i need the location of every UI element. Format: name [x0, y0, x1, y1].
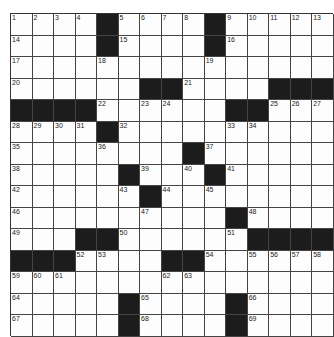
- grid-cell[interactable]: [33, 315, 55, 337]
- grid-cell[interactable]: [269, 186, 291, 208]
- grid-cell[interactable]: 5: [119, 14, 141, 36]
- grid-cell[interactable]: 2: [33, 14, 55, 36]
- grid-cell[interactable]: 8: [183, 14, 205, 36]
- grid-cell[interactable]: [312, 315, 334, 337]
- grid-cell[interactable]: 27: [312, 100, 334, 122]
- grid-cell[interactable]: [269, 315, 291, 337]
- grid-cell[interactable]: 12: [291, 14, 313, 36]
- grid-cell[interactable]: 20: [11, 79, 33, 101]
- grid-cell[interactable]: 38: [11, 165, 33, 187]
- grid-cell[interactable]: [226, 186, 248, 208]
- grid-cell[interactable]: [140, 122, 162, 144]
- grid-cell[interactable]: [248, 272, 270, 294]
- grid-cell[interactable]: 25: [269, 100, 291, 122]
- grid-cell[interactable]: 45: [205, 186, 227, 208]
- grid-cell[interactable]: [140, 272, 162, 294]
- grid-cell[interactable]: 9: [226, 14, 248, 36]
- grid-cell[interactable]: 55: [248, 251, 270, 273]
- grid-cell[interactable]: [183, 36, 205, 58]
- grid-cell[interactable]: [76, 208, 98, 230]
- grid-cell[interactable]: [76, 294, 98, 316]
- grid-cell[interactable]: [162, 294, 184, 316]
- grid-cell[interactable]: 47: [140, 208, 162, 230]
- grid-cell[interactable]: [183, 100, 205, 122]
- grid-cell[interactable]: [33, 143, 55, 165]
- grid-cell[interactable]: [76, 143, 98, 165]
- grid-cell[interactable]: [97, 79, 119, 101]
- grid-cell[interactable]: [119, 143, 141, 165]
- grid-cell[interactable]: [54, 315, 76, 337]
- grid-cell[interactable]: 16: [226, 36, 248, 58]
- grid-cell[interactable]: [97, 165, 119, 187]
- grid-cell[interactable]: 40: [183, 165, 205, 187]
- grid-cell[interactable]: 46: [11, 208, 33, 230]
- grid-cell[interactable]: [54, 79, 76, 101]
- grid-cell[interactable]: 64: [11, 294, 33, 316]
- grid-cell[interactable]: 22: [97, 100, 119, 122]
- grid-cell[interactable]: [54, 165, 76, 187]
- grid-cell[interactable]: 54: [205, 251, 227, 273]
- grid-cell[interactable]: 58: [312, 251, 334, 273]
- grid-cell[interactable]: [269, 57, 291, 79]
- grid-cell[interactable]: [205, 208, 227, 230]
- grid-cell[interactable]: [269, 272, 291, 294]
- grid-cell[interactable]: [312, 122, 334, 144]
- grid-cell[interactable]: [140, 57, 162, 79]
- grid-cell[interactable]: 48: [248, 208, 270, 230]
- grid-cell[interactable]: [291, 143, 313, 165]
- grid-cell[interactable]: [119, 251, 141, 273]
- grid-cell[interactable]: [269, 122, 291, 144]
- grid-cell[interactable]: 44: [162, 186, 184, 208]
- grid-cell[interactable]: [33, 36, 55, 58]
- grid-cell[interactable]: [205, 79, 227, 101]
- grid-cell[interactable]: 63: [183, 272, 205, 294]
- grid-cell[interactable]: [312, 208, 334, 230]
- grid-cell[interactable]: [205, 294, 227, 316]
- grid-cell[interactable]: 7: [162, 14, 184, 36]
- grid-cell[interactable]: 68: [140, 315, 162, 337]
- grid-cell[interactable]: [291, 122, 313, 144]
- grid-cell[interactable]: 53: [97, 251, 119, 273]
- grid-cell[interactable]: [248, 79, 270, 101]
- grid-cell[interactable]: 60: [33, 272, 55, 294]
- grid-cell[interactable]: [119, 272, 141, 294]
- grid-cell[interactable]: [162, 229, 184, 251]
- grid-cell[interactable]: [33, 79, 55, 101]
- grid-cell[interactable]: [269, 143, 291, 165]
- grid-cell[interactable]: [33, 57, 55, 79]
- grid-cell[interactable]: [312, 165, 334, 187]
- grid-cell[interactable]: [205, 315, 227, 337]
- grid-cell[interactable]: [291, 208, 313, 230]
- grid-cell[interactable]: 24: [162, 100, 184, 122]
- grid-cell[interactable]: [269, 36, 291, 58]
- grid-cell[interactable]: [54, 143, 76, 165]
- grid-cell[interactable]: 59: [11, 272, 33, 294]
- grid-cell[interactable]: [226, 272, 248, 294]
- grid-cell[interactable]: [140, 36, 162, 58]
- grid-cell[interactable]: [76, 165, 98, 187]
- grid-cell[interactable]: [119, 100, 141, 122]
- grid-cell[interactable]: [97, 186, 119, 208]
- grid-cell[interactable]: [162, 122, 184, 144]
- grid-cell[interactable]: [54, 186, 76, 208]
- grid-cell[interactable]: 41: [226, 165, 248, 187]
- grid-cell[interactable]: 61: [54, 272, 76, 294]
- grid-cell[interactable]: 6: [140, 14, 162, 36]
- grid-cell[interactable]: [54, 36, 76, 58]
- grid-cell[interactable]: 52: [76, 251, 98, 273]
- grid-cell[interactable]: [162, 36, 184, 58]
- grid-cell[interactable]: [248, 143, 270, 165]
- grid-cell[interactable]: [269, 165, 291, 187]
- grid-cell[interactable]: 11: [269, 14, 291, 36]
- grid-cell[interactable]: [97, 208, 119, 230]
- grid-cell[interactable]: [205, 272, 227, 294]
- grid-cell[interactable]: 31: [76, 122, 98, 144]
- grid-cell[interactable]: 30: [54, 122, 76, 144]
- grid-cell[interactable]: [312, 143, 334, 165]
- grid-cell[interactable]: [97, 315, 119, 337]
- grid-cell[interactable]: [205, 122, 227, 144]
- grid-cell[interactable]: [162, 315, 184, 337]
- grid-cell[interactable]: [183, 315, 205, 337]
- grid-cell[interactable]: 43: [119, 186, 141, 208]
- grid-cell[interactable]: [119, 57, 141, 79]
